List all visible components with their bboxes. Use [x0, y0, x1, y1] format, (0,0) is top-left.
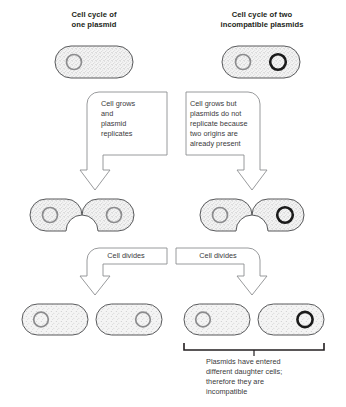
top-right-cell: [222, 46, 300, 78]
incompatibility-bracket: [184, 343, 324, 356]
left-growth-step-label: Cell grows and plasmid replicates: [101, 99, 165, 139]
incompatibility-caption: Plasmids have entered different daughter…: [206, 357, 326, 397]
middle-right-cell: [200, 199, 304, 231]
plasmid-incompatibility-diagram: [0, 0, 346, 407]
bottom-cell-2: [96, 304, 162, 335]
right-division-step-label: Cell divides: [180, 251, 256, 260]
right-column-title: Cell cycle of two incompatible plasmids: [196, 10, 328, 29]
left-division-step-label: Cell divides: [89, 251, 163, 260]
bottom-cell-1: [22, 304, 88, 335]
right-growth-step-label: Cell grows but plasmids do not replicate…: [190, 99, 264, 149]
middle-left-cell: [30, 199, 134, 231]
diagram-canvas: Cell cycle of one plasmid Cell cycle of …: [0, 0, 346, 407]
bottom-cell-4: [258, 304, 324, 335]
left-column-title: Cell cycle of one plasmid: [38, 10, 150, 29]
bottom-cell-3: [184, 304, 250, 335]
top-left-cell: [55, 46, 133, 78]
